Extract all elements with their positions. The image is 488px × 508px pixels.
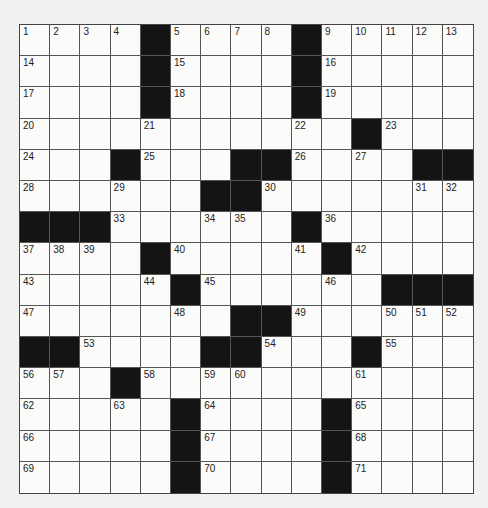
crossword-cell[interactable]: 48 xyxy=(171,306,201,337)
crossword-cell[interactable] xyxy=(262,275,292,306)
crossword-cell[interactable]: 51 xyxy=(413,306,443,337)
crossword-cell[interactable] xyxy=(322,181,352,212)
crossword-cell[interactable] xyxy=(382,243,412,274)
crossword-cell[interactable] xyxy=(413,87,443,118)
crossword-cell[interactable]: 38 xyxy=(50,243,80,274)
crossword-cell[interactable] xyxy=(50,275,80,306)
crossword-cell[interactable] xyxy=(292,275,322,306)
crossword-cell[interactable] xyxy=(382,212,412,243)
crossword-cell[interactable]: 49 xyxy=(292,306,322,337)
crossword-cell[interactable] xyxy=(262,399,292,430)
crossword-cell[interactable] xyxy=(111,275,141,306)
crossword-cell[interactable]: 12 xyxy=(413,25,443,56)
crossword-cell[interactable] xyxy=(171,212,201,243)
crossword-cell[interactable]: 43 xyxy=(20,275,50,306)
crossword-cell[interactable]: 34 xyxy=(201,212,231,243)
crossword-cell[interactable] xyxy=(171,368,201,399)
crossword-cell[interactable] xyxy=(292,399,322,430)
crossword-cell[interactable] xyxy=(80,306,110,337)
crossword-cell[interactable] xyxy=(80,368,110,399)
crossword-cell[interactable] xyxy=(171,119,201,150)
crossword-cell[interactable] xyxy=(80,119,110,150)
crossword-cell[interactable]: 29 xyxy=(111,181,141,212)
crossword-cell[interactable] xyxy=(50,181,80,212)
crossword-cell[interactable]: 21 xyxy=(141,119,171,150)
crossword-cell[interactable] xyxy=(171,337,201,368)
crossword-cell[interactable] xyxy=(443,119,473,150)
crossword-cell[interactable] xyxy=(50,399,80,430)
crossword-cell[interactable] xyxy=(80,275,110,306)
crossword-cell[interactable] xyxy=(413,399,443,430)
crossword-cell[interactable] xyxy=(111,462,141,493)
crossword-cell[interactable] xyxy=(352,275,382,306)
crossword-cell[interactable] xyxy=(50,119,80,150)
crossword-cell[interactable] xyxy=(352,212,382,243)
crossword-cell[interactable]: 39 xyxy=(80,243,110,274)
crossword-cell[interactable]: 64 xyxy=(201,399,231,430)
crossword-cell[interactable] xyxy=(262,243,292,274)
crossword-cell[interactable]: 24 xyxy=(20,150,50,181)
crossword-cell[interactable] xyxy=(231,275,261,306)
crossword-cell[interactable]: 50 xyxy=(382,306,412,337)
crossword-cell[interactable]: 42 xyxy=(352,243,382,274)
crossword-cell[interactable] xyxy=(262,462,292,493)
crossword-cell[interactable] xyxy=(322,150,352,181)
crossword-cell[interactable] xyxy=(292,337,322,368)
crossword-cell[interactable]: 36 xyxy=(322,212,352,243)
crossword-cell[interactable] xyxy=(322,119,352,150)
crossword-cell[interactable] xyxy=(50,462,80,493)
crossword-cell[interactable] xyxy=(231,431,261,462)
crossword-cell[interactable]: 59 xyxy=(201,368,231,399)
crossword-cell[interactable] xyxy=(50,431,80,462)
crossword-cell[interactable]: 46 xyxy=(322,275,352,306)
crossword-cell[interactable]: 45 xyxy=(201,275,231,306)
crossword-cell[interactable] xyxy=(80,399,110,430)
crossword-cell[interactable]: 60 xyxy=(231,368,261,399)
crossword-cell[interactable] xyxy=(382,368,412,399)
crossword-cell[interactable] xyxy=(50,306,80,337)
crossword-cell[interactable]: 71 xyxy=(352,462,382,493)
crossword-cell[interactable] xyxy=(201,243,231,274)
crossword-cell[interactable] xyxy=(292,462,322,493)
crossword-cell[interactable]: 6 xyxy=(201,25,231,56)
crossword-cell[interactable] xyxy=(443,337,473,368)
crossword-cell[interactable] xyxy=(382,150,412,181)
crossword-cell[interactable]: 47 xyxy=(20,306,50,337)
crossword-cell[interactable] xyxy=(322,368,352,399)
crossword-cell[interactable] xyxy=(171,181,201,212)
crossword-cell[interactable] xyxy=(50,150,80,181)
crossword-cell[interactable] xyxy=(80,462,110,493)
crossword-cell[interactable] xyxy=(413,212,443,243)
crossword-cell[interactable]: 28 xyxy=(20,181,50,212)
crossword-cell[interactable] xyxy=(382,87,412,118)
crossword-cell[interactable] xyxy=(292,431,322,462)
crossword-cell[interactable]: 3 xyxy=(80,25,110,56)
crossword-cell[interactable]: 40 xyxy=(171,243,201,274)
crossword-cell[interactable] xyxy=(413,431,443,462)
crossword-cell[interactable] xyxy=(352,181,382,212)
crossword-cell[interactable] xyxy=(413,368,443,399)
crossword-cell[interactable] xyxy=(352,306,382,337)
crossword-cell[interactable] xyxy=(80,431,110,462)
crossword-cell[interactable] xyxy=(171,150,201,181)
crossword-cell[interactable] xyxy=(141,431,171,462)
crossword-cell[interactable] xyxy=(262,87,292,118)
crossword-cell[interactable] xyxy=(352,56,382,87)
crossword-cell[interactable] xyxy=(443,56,473,87)
crossword-cell[interactable] xyxy=(80,87,110,118)
crossword-cell[interactable] xyxy=(231,243,261,274)
crossword-cell[interactable] xyxy=(141,462,171,493)
crossword-cell[interactable]: 2 xyxy=(50,25,80,56)
crossword-cell[interactable]: 32 xyxy=(443,181,473,212)
crossword-cell[interactable] xyxy=(141,306,171,337)
crossword-cell[interactable]: 16 xyxy=(322,56,352,87)
crossword-cell[interactable] xyxy=(141,399,171,430)
crossword-cell[interactable]: 30 xyxy=(262,181,292,212)
crossword-cell[interactable]: 65 xyxy=(352,399,382,430)
crossword-cell[interactable] xyxy=(201,306,231,337)
crossword-cell[interactable] xyxy=(231,87,261,118)
crossword-cell[interactable] xyxy=(50,56,80,87)
crossword-cell[interactable]: 63 xyxy=(111,399,141,430)
crossword-cell[interactable] xyxy=(413,337,443,368)
crossword-cell[interactable]: 19 xyxy=(322,87,352,118)
